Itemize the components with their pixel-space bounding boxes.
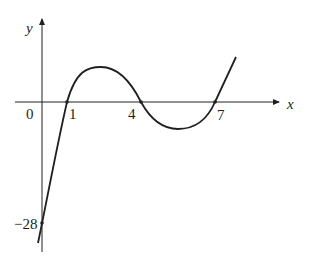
x-intercept-label-1: 1 [69, 106, 77, 122]
x-axis-label: x [286, 96, 294, 112]
intercept-dot-4 [139, 100, 143, 104]
graph-svg: y x 0 1 4 7 −28 [0, 0, 309, 262]
x-intercept-label-7: 7 [217, 107, 225, 123]
y-axis-label: y [24, 20, 33, 36]
intercept-dot-7 [213, 100, 217, 104]
origin-label: 0 [26, 106, 34, 122]
cubic-curve [38, 57, 236, 243]
y-intercept-label: −28 [14, 216, 37, 232]
intercept-dot-y [40, 221, 44, 225]
intercept-dot-1 [65, 100, 69, 104]
x-intercept-label-4: 4 [128, 106, 136, 122]
cubic-graph-figure: y x 0 1 4 7 −28 [0, 0, 309, 262]
